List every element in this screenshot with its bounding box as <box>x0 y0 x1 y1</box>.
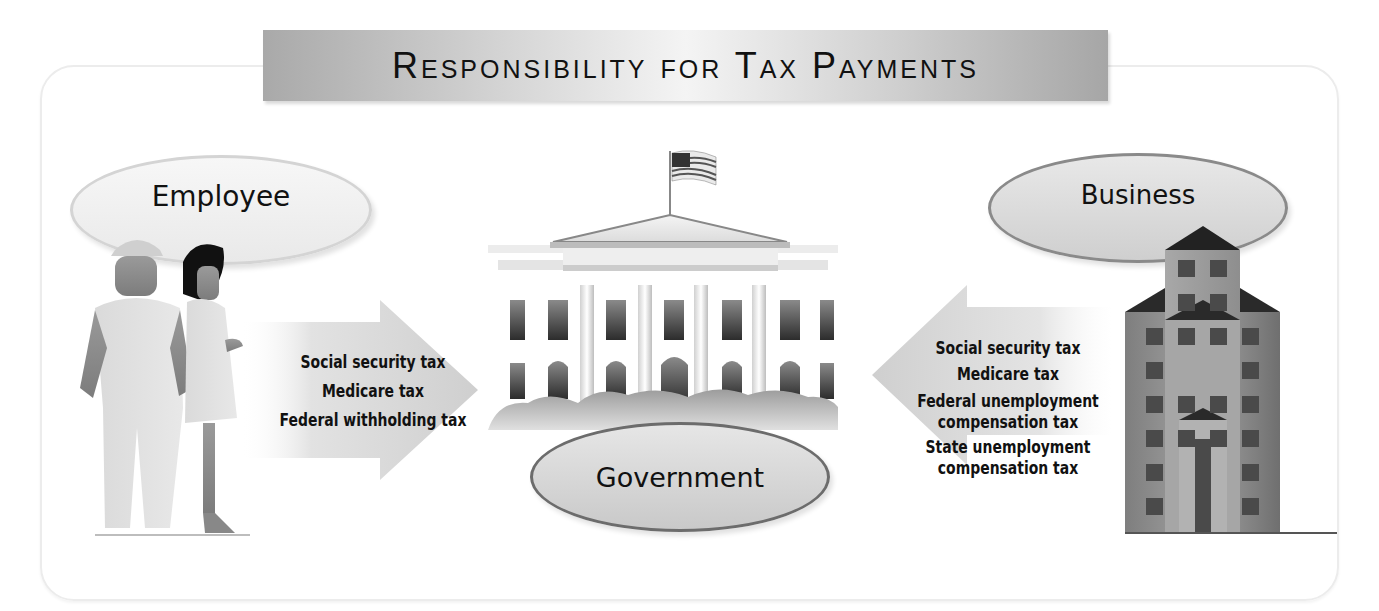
white-house-icon <box>488 145 838 430</box>
business-tax-line: compensation tax <box>885 458 1131 479</box>
business-tax-item: Medicare tax <box>885 361 1131 387</box>
office-building-icon <box>1125 222 1340 534</box>
business-tax-item: State unemployment compensation tax <box>885 437 1131 479</box>
workers-figures-icon <box>75 228 250 540</box>
employee-tax-item: Medicare tax <box>254 377 492 406</box>
diagram-title: Responsibility for Tax Payments <box>392 45 979 87</box>
business-tax-item: Federal unemployment compensation tax <box>885 391 1131 433</box>
employee-label: Employee <box>152 180 291 213</box>
government-label-ellipse: Government <box>530 422 830 532</box>
title-banner: Responsibility for Tax Payments <box>263 30 1108 101</box>
government-label: Government <box>596 462 764 493</box>
employee-tax-item: Federal withholding tax <box>254 406 492 435</box>
business-label: Business <box>1081 180 1196 210</box>
business-tax-item: Social security tax <box>885 335 1131 361</box>
business-tax-line: compensation tax <box>885 412 1131 433</box>
business-tax-line: Federal unemployment <box>885 391 1131 412</box>
business-tax-line: State unemployment <box>885 437 1131 458</box>
us-flag-icon <box>672 151 716 185</box>
business-tax-list: Social security tax Medicare tax Federal… <box>885 335 1131 483</box>
employee-tax-list: Social security tax Medicare tax Federal… <box>254 348 492 435</box>
employee-tax-item: Social security tax <box>254 348 492 377</box>
